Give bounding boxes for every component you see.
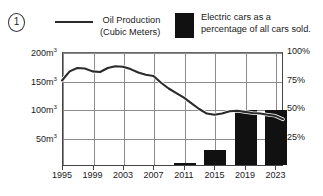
legend-label-oil-production: Oil Production (Cubic Meters) bbox=[100, 15, 160, 38]
square-swatch-icon bbox=[175, 13, 194, 38]
left-axis-tick-label: 150m3 bbox=[31, 75, 57, 87]
x-axis-tick-label: 2003 bbox=[113, 170, 133, 180]
legend-label-line1: Oil Production bbox=[103, 15, 161, 25]
x-axis-tick-label: 1995 bbox=[52, 170, 72, 180]
chart-legend: Oil Production (Cubic Meters) Electric c… bbox=[55, 12, 320, 42]
right-axis-tick-label: 75% bbox=[287, 75, 305, 85]
left-axis-tick-label: 100m3 bbox=[31, 103, 57, 115]
x-axis-tick-label: 2015 bbox=[204, 170, 224, 180]
left-axis-tick-label: 200m3 bbox=[31, 46, 57, 58]
right-axis bbox=[286, 0, 323, 196]
legend-item-oil-production: Oil Production (Cubic Meters) bbox=[55, 15, 160, 38]
x-axis-tick-label: 2007 bbox=[143, 170, 163, 180]
chart-figure: 1 Oil Production (Cubic Meters) Electric… bbox=[0, 0, 323, 196]
legend-label-line2: (Cubic Meters) bbox=[100, 27, 160, 39]
x-axis-tick-label: 2019 bbox=[235, 170, 255, 180]
right-axis-tick-label: 50% bbox=[287, 103, 305, 113]
x-axis-tick-label: 2011 bbox=[174, 170, 193, 180]
left-axis-tick-label: 50m3 bbox=[36, 132, 57, 144]
x-axis-tick-label: 1999 bbox=[82, 170, 102, 180]
oil-line-halo bbox=[62, 66, 283, 119]
left-axis bbox=[0, 0, 60, 196]
legend-label-line1: Electric cars as a bbox=[201, 12, 271, 22]
right-axis-tick-label: 100% bbox=[287, 46, 310, 56]
oil-production-line bbox=[62, 52, 283, 166]
right-axis-tick-label: 25% bbox=[287, 132, 305, 142]
x-axis-tick-label: 2023 bbox=[265, 170, 285, 180]
line-swatch-icon bbox=[55, 21, 93, 23]
